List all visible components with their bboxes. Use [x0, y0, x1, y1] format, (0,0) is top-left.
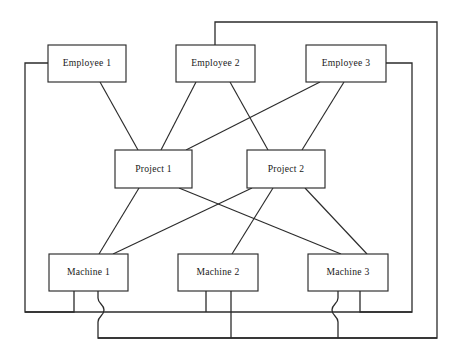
node-project2[interactable]: Project 2 [247, 150, 325, 188]
diagram-canvas: Employee 1Employee 2Employee 3Project 1P… [0, 0, 457, 356]
node-label-employee3: Employee 3 [322, 57, 371, 68]
node-label-employee1: Employee 1 [63, 57, 112, 68]
node-label-project1: Project 1 [135, 163, 172, 174]
edge-e1-p1 [100, 82, 138, 150]
edge-e2-p2 [230, 82, 268, 150]
node-machine3[interactable]: Machine 3 [308, 254, 388, 291]
edge-e2-p1 [161, 82, 196, 150]
node-employee1[interactable]: Employee 1 [48, 45, 126, 82]
node-employee2[interactable]: Employee 2 [176, 45, 255, 82]
node-label-project2: Project 2 [268, 163, 305, 174]
node-employee3[interactable]: Employee 3 [306, 45, 386, 82]
node-group: Employee 1Employee 2Employee 3Project 1P… [48, 45, 388, 291]
node-label-employee2: Employee 2 [191, 57, 240, 68]
node-label-machine2: Machine 2 [196, 266, 239, 277]
node-machine1[interactable]: Machine 1 [49, 254, 128, 291]
node-machine2[interactable]: Machine 2 [178, 254, 258, 291]
edge-e3-p1 [186, 82, 320, 150]
network-diagram: Employee 1Employee 2Employee 3Project 1P… [0, 0, 457, 356]
node-project1[interactable]: Project 1 [115, 150, 192, 188]
edge-p2-m2 [232, 188, 273, 254]
routed-edge-m3-bus-lower [332, 291, 338, 338]
edge-p2-m3 [305, 188, 367, 254]
node-label-machine1: Machine 1 [67, 266, 110, 277]
edge-e3-p2 [302, 82, 344, 150]
edge-p1-m3 [179, 188, 341, 254]
node-label-machine3: Machine 3 [326, 266, 369, 277]
edge-p2-m1 [113, 188, 252, 254]
